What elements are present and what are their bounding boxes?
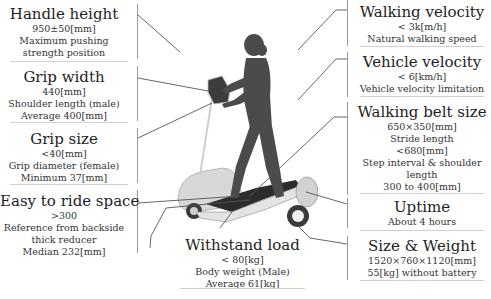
divider-right-1	[347, 0, 348, 46]
spec-line: Average 400[mm]	[0, 110, 128, 122]
spec-line: 1520×760×1120[mm]	[356, 255, 488, 267]
spec-line: 650×350[mm]	[356, 121, 488, 133]
separator	[10, 61, 128, 62]
spec-line: < 6[km/h]	[356, 71, 488, 83]
spec-line: <40[mm]	[0, 148, 128, 160]
spec-line: <680[mm]	[356, 145, 488, 157]
spec-line: >300	[0, 210, 128, 222]
spec-title: Grip width	[0, 69, 128, 86]
separator	[360, 46, 484, 47]
divider-right-5	[347, 236, 348, 280]
separator	[360, 230, 484, 231]
spec-grip-width: Grip width 440[mm] Shoulder length (male…	[0, 69, 128, 122]
spec-title: Handle height	[0, 6, 128, 23]
spec-line: Minimum 37[mm]	[0, 172, 128, 184]
spec-title: Withstand load	[170, 237, 315, 254]
spec-grip-size: Grip size <40[mm] Grip diameter (female)…	[0, 131, 128, 184]
spec-line: Median 232[mm]	[0, 246, 128, 258]
spec-vehicle-velocity: Vehicle velocity < 6[km/h] Vehicle veloc…	[356, 54, 488, 95]
spec-title: Walking velocity	[356, 4, 488, 21]
spec-withstand-load: Withstand load < 80[kg] Body weight (Mal…	[170, 237, 315, 290]
spec-title: Vehicle velocity	[356, 54, 488, 71]
spec-line: Vehicle velocity limitation	[356, 83, 488, 95]
spec-line: Step interval & shoulder	[356, 157, 488, 169]
spec-line: Natural walking speed	[356, 33, 488, 45]
spec-line: Maximum pushing	[0, 35, 128, 47]
spec-line: 300 to 400[mm]	[356, 181, 488, 193]
spec-line: < 80[kg]	[170, 254, 315, 266]
spec-line: Grip diameter (female)	[0, 160, 128, 172]
spec-line: < 3k[m/h]	[356, 21, 488, 33]
divider-left-2	[137, 66, 138, 121]
divider-right-2	[347, 52, 348, 97]
spec-line: About 4 hours	[356, 216, 488, 228]
spec-handle-height: Handle height 950±50[mm] Maximum pushing…	[0, 6, 128, 59]
spec-title: Easy to ride space	[0, 193, 128, 210]
separator	[180, 288, 305, 289]
handle-pole	[200, 98, 212, 175]
spec-line: Reference from backside	[0, 222, 128, 234]
divider-left-3	[137, 128, 138, 183]
spec-line: 950±50[mm]	[0, 23, 128, 35]
spec-line: Shoulder length (male)	[0, 98, 128, 110]
divider-right-3	[347, 102, 348, 195]
separator	[360, 96, 484, 97]
spec-walking-belt-size: Walking belt size 650×350[mm] Stride len…	[356, 104, 488, 193]
spec-line: 440[mm]	[0, 86, 128, 98]
spec-size-weight: Size & Weight 1520×760×1120[mm] 55[kg] w…	[356, 238, 488, 279]
spec-line: length	[356, 169, 488, 181]
spec-title: Grip size	[0, 131, 128, 148]
spec-line: Stride length	[356, 133, 488, 145]
spec-title: Walking belt size	[356, 104, 488, 121]
spec-walking-velocity: Walking velocity < 3k[m/h] Natural walki…	[356, 4, 488, 45]
spec-title: Size & Weight	[356, 238, 488, 255]
spec-line: strength position	[0, 47, 128, 59]
spec-uptime: Uptime About 4 hours	[356, 199, 488, 228]
divider-left-1	[137, 4, 138, 59]
separator	[360, 280, 484, 281]
spec-line: 55[kg] without battery	[356, 267, 488, 279]
divider-right-4	[347, 198, 348, 228]
spec-easy-to-ride-space: Easy to ride space >300 Reference from b…	[0, 193, 128, 258]
spec-title: Uptime	[356, 199, 488, 216]
separator	[360, 193, 484, 194]
separator	[10, 184, 128, 185]
spec-line: Body weight (Male)	[170, 266, 315, 278]
separator	[10, 122, 128, 123]
spec-line: thick reducer	[0, 234, 128, 246]
